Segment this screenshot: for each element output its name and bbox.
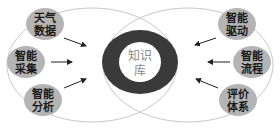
node-evaluation-system: 评价 体系	[219, 84, 257, 116]
svg-text:智能: 智能	[32, 87, 54, 101]
svg-text:流程: 流程	[241, 62, 263, 76]
knowledge-base-diagram: 知识 库 天气 数据 智能 采集 智能 分析 智能 驱动 智能 流程 评价 体系	[0, 0, 280, 130]
center-label-line2: 库	[134, 63, 146, 78]
svg-text:天气: 天气	[34, 11, 56, 25]
svg-text:智能: 智能	[15, 49, 37, 63]
arrow-icon	[64, 38, 86, 46]
svg-text:数据: 数据	[34, 24, 56, 38]
node-weather-data: 天气 数据	[26, 8, 64, 40]
svg-text:智能: 智能	[226, 11, 248, 25]
arrow-icon	[195, 38, 216, 45]
svg-text:驱动: 驱动	[226, 24, 248, 38]
node-smart-collection: 智能 采集	[7, 46, 45, 78]
svg-text:采集: 采集	[14, 62, 38, 76]
svg-text:评价: 评价	[227, 88, 250, 101]
center-label-line1: 知识	[128, 49, 152, 63]
svg-text:体系: 体系	[227, 100, 249, 114]
node-smart-process: 智能 流程	[233, 46, 271, 78]
svg-text:分析: 分析	[32, 100, 54, 114]
node-smart-analysis: 智能 分析	[24, 84, 62, 116]
arrow-icon	[64, 79, 86, 88]
node-smart-drive: 智能 驱动	[218, 8, 256, 40]
arrow-icon	[196, 79, 218, 88]
svg-text:智能: 智能	[241, 49, 263, 63]
